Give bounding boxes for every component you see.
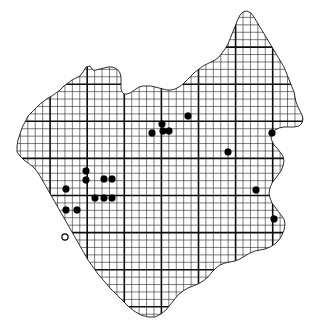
record-dot-filled [225,149,232,156]
record-dot-filled [269,130,276,137]
record-dot-filled [149,130,156,137]
record-dot-filled [74,207,81,214]
map-canvas [0,0,319,332]
record-dot-filled [63,186,70,193]
record-dot-filled [166,128,173,135]
record-dot-filled [83,177,90,184]
record-dot-filled [101,176,108,183]
record-dot-open [62,234,68,240]
record-dot-filled [63,207,70,214]
distribution-map: Grid-based distribution map showing twen… [0,0,319,332]
record-dot-filled [83,168,90,175]
record-dot-filled [109,176,116,183]
record-dot-filled [185,113,192,120]
record-dot-filled [101,195,108,202]
record-dot-filled [253,187,260,194]
record-dot-filled [92,195,99,202]
record-dot-filled [159,121,166,128]
record-dot-filled [160,128,167,135]
record-dot-filled [271,216,278,223]
record-dot-filled [109,195,116,202]
